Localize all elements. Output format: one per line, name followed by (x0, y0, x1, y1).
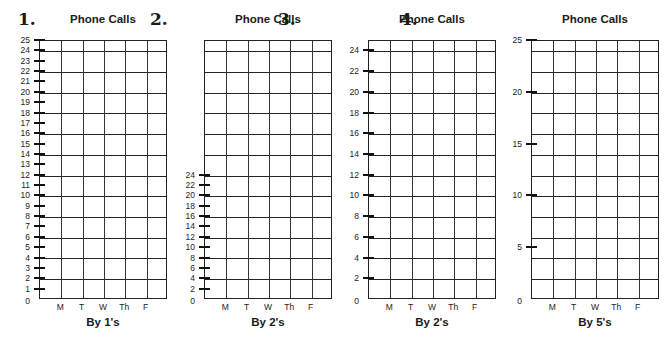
y-axis-tick (363, 112, 374, 114)
y-axis-label: 6 (177, 263, 195, 273)
grid-line-vertical (104, 41, 105, 298)
y-axis-tick (199, 225, 210, 227)
problem-number: 4. (400, 9, 418, 29)
y-axis-label: 10 (341, 190, 359, 200)
y-axis-label: 10 (12, 190, 30, 200)
y-axis-label: 22 (341, 66, 359, 76)
y-axis-label: 21 (12, 76, 30, 86)
y-axis-tick (34, 101, 45, 103)
x-axis-label-w: W (422, 302, 442, 312)
y-axis-label: 0 (12, 296, 30, 306)
y-axis-label: 2 (341, 273, 359, 283)
y-axis-tick (199, 194, 210, 196)
y-axis-tick (526, 246, 537, 248)
y-axis-tick (363, 257, 374, 259)
y-axis-label: 18 (177, 201, 195, 211)
y-axis-label: 24 (12, 45, 30, 55)
y-axis-label: 1 (12, 284, 30, 294)
y-axis-label: 14 (177, 221, 195, 231)
y-axis-label: 22 (177, 180, 195, 190)
y-axis-tick (526, 143, 537, 145)
y-axis-label: 22 (12, 66, 30, 76)
y-axis-label: 15 (504, 139, 522, 149)
y-axis-label: 9 (12, 201, 30, 211)
y-axis-label: 20 (341, 87, 359, 97)
y-axis-label: 24 (177, 170, 195, 180)
graph-grid[interactable] (368, 40, 496, 299)
y-axis-tick (34, 112, 45, 114)
y-axis-tick (363, 91, 374, 93)
grid-line-vertical (596, 41, 597, 298)
x-axis-label-th: Th (606, 302, 626, 312)
y-axis-tick (363, 236, 374, 238)
grid-line-vertical (147, 41, 148, 298)
y-axis-label: 0 (504, 296, 522, 306)
grid-line-vertical (312, 41, 313, 298)
x-axis-label-w: W (585, 302, 605, 312)
y-axis-tick (363, 215, 374, 217)
chart-title: Phone Calls (531, 13, 659, 25)
y-axis-label: 2 (12, 273, 30, 283)
x-axis-label-t: T (237, 302, 257, 312)
chart-title: Phone Calls (368, 13, 496, 25)
grid-line-vertical (553, 41, 554, 298)
grid-line-vertical (476, 41, 477, 298)
grid-line-vertical (61, 41, 62, 298)
y-axis-label: 6 (12, 232, 30, 242)
y-axis-tick (34, 174, 45, 176)
y-axis-tick (363, 132, 374, 134)
y-axis-label: 10 (177, 242, 195, 252)
y-axis-tick (34, 215, 45, 217)
y-axis-label: 23 (12, 56, 30, 66)
x-axis-label-f: F (628, 302, 648, 312)
y-axis-tick (34, 288, 45, 290)
y-axis-tick (526, 194, 537, 196)
grid-line-vertical (248, 41, 249, 298)
grid-line-vertical (83, 41, 84, 298)
y-axis-tick (34, 246, 45, 248)
y-axis-label: 16 (341, 128, 359, 138)
y-axis-tick (526, 91, 537, 93)
y-axis-label: 5 (12, 242, 30, 252)
y-axis-tick (34, 49, 45, 51)
y-axis-label: 19 (12, 97, 30, 107)
chart-title: Phone Calls (39, 13, 167, 25)
y-axis-tick (199, 205, 210, 207)
y-axis-tick (34, 236, 45, 238)
x-axis-label-th: Th (443, 302, 463, 312)
graph-grid[interactable] (39, 40, 167, 299)
grid-line-vertical (454, 41, 455, 298)
y-axis-label: 0 (341, 296, 359, 306)
x-axis-label-th: Th (114, 302, 134, 312)
x-axis-label-f: F (465, 302, 485, 312)
x-axis-label-t: T (401, 302, 421, 312)
y-axis-label: 11 (12, 180, 30, 190)
y-axis-tick (34, 194, 45, 196)
y-axis-tick (363, 49, 374, 51)
scale-caption: By 2's (368, 316, 496, 328)
y-axis-tick (363, 70, 374, 72)
y-axis-label: 7 (12, 221, 30, 231)
y-axis-label: 0 (177, 296, 195, 306)
y-axis-label: 8 (341, 211, 359, 221)
y-axis-tick (34, 163, 45, 165)
y-axis-tick (34, 122, 45, 124)
x-axis-label-th: Th (279, 302, 299, 312)
y-axis-label: 25 (12, 35, 30, 45)
y-axis-tick (199, 236, 210, 238)
y-axis-tick (199, 174, 210, 176)
grid-line-vertical (390, 41, 391, 298)
y-axis-label: 20 (177, 190, 195, 200)
grid-line-vertical (575, 41, 576, 298)
y-axis-label: 12 (177, 232, 195, 242)
grid-line-vertical (433, 41, 434, 298)
grid-line-vertical (639, 41, 640, 298)
graph-grid[interactable] (531, 40, 659, 299)
y-axis-tick (34, 257, 45, 259)
y-axis-label: 18 (341, 108, 359, 118)
y-axis-label: 4 (341, 253, 359, 263)
y-axis-tick (34, 80, 45, 82)
y-axis-label: 4 (12, 253, 30, 263)
y-axis-label: 5 (504, 242, 522, 252)
graph-grid[interactable] (204, 40, 332, 299)
